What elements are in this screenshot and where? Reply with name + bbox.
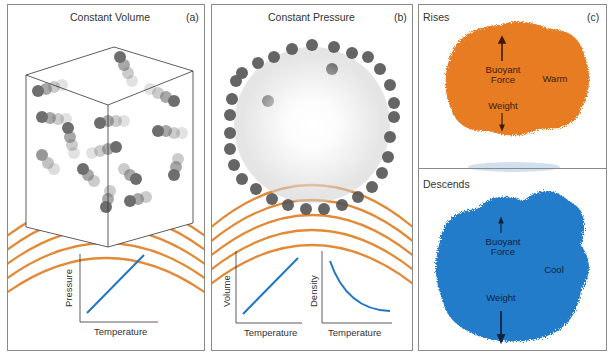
x-axis-label: Temperature bbox=[244, 327, 297, 338]
descends-title: Descends bbox=[423, 178, 470, 190]
panel-letter: (a) bbox=[186, 11, 199, 23]
weight-label: Weight bbox=[481, 293, 521, 303]
x-axis-label: Temperature bbox=[94, 326, 147, 337]
panel-constant-pressure: Volume Temperature Density Temperature C… bbox=[211, 4, 413, 351]
panel-title: Constant Pressure bbox=[268, 11, 355, 23]
constant-volume-illustration: Pressure Temperature bbox=[8, 5, 204, 350]
gas-container-cube bbox=[26, 47, 193, 247]
pressure-temperature-graph: Pressure Temperature bbox=[63, 254, 158, 337]
x-axis-label: Temperature bbox=[328, 327, 381, 338]
cool-label: Cool bbox=[539, 265, 569, 275]
panel-divider bbox=[419, 168, 606, 169]
warm-air-parcel bbox=[445, 22, 589, 172]
y-axis-label: Density bbox=[308, 275, 319, 307]
weight-label: Weight bbox=[483, 101, 523, 111]
panel-air-parcel: Rises (c) Buoyant Force Warm Weight Desc… bbox=[418, 4, 607, 351]
rises-title: Rises bbox=[423, 11, 449, 23]
ground-shadow bbox=[468, 162, 560, 172]
density-temperature-graph: Density Temperature bbox=[308, 251, 392, 338]
expanded-gas-molecules bbox=[224, 39, 400, 215]
buoyant-force-label: Buoyant Force bbox=[485, 65, 521, 85]
constant-pressure-illustration: Volume Temperature Density Temperature bbox=[212, 5, 412, 350]
panel-letter: (c) bbox=[587, 11, 599, 23]
warm-label: Warm bbox=[537, 74, 573, 84]
volume-temperature-graph: Volume Temperature bbox=[221, 251, 302, 338]
panel-constant-volume: Pressure Temperature Constant Volume (a) bbox=[7, 4, 205, 351]
buoyant-force-label: Buoyant Force bbox=[483, 237, 523, 257]
y-axis-label: Pressure bbox=[63, 269, 74, 307]
panel-title: Constant Volume bbox=[70, 11, 150, 23]
panel-letter: (b) bbox=[394, 11, 407, 23]
y-axis-label: Volume bbox=[221, 275, 232, 307]
